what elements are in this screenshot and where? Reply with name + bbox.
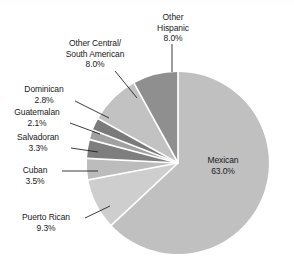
- slice-label-puerto-rican-name: Puerto Rican: [10, 212, 82, 223]
- slice-label-guatemalan-value: 2.1%: [6, 118, 68, 129]
- slice-label-other-hispanic: Other Hispanic 8.0%: [142, 12, 204, 44]
- leader-line-dominican: [75, 101, 109, 118]
- slice-label-mexican-value: 63.0%: [193, 166, 253, 177]
- slice-label-puerto-rican-value: 9.3%: [10, 223, 82, 234]
- slice-label-salvadoran-name: Salvadoran: [8, 132, 68, 143]
- slice-label-salvadoran-value: 3.3%: [8, 143, 68, 154]
- slice-label-guatemalan: Guatemalan 2.1%: [6, 107, 68, 128]
- slice-label-other-central-south-american-value: 8.0%: [51, 59, 139, 70]
- slice-label-other-hispanic-value: 8.0%: [142, 33, 204, 44]
- slice-label-guatemalan-name: Guatemalan: [6, 107, 68, 118]
- slice-label-dominican: Dominican 2.8%: [14, 84, 74, 105]
- slice-label-dominican-value: 2.8%: [14, 95, 74, 106]
- slice-label-puerto-rican: Puerto Rican 9.3%: [10, 212, 82, 233]
- slice-label-salvadoran: Salvadoran 3.3%: [8, 132, 68, 153]
- slice-label-other-central-south-american-line2: South American: [51, 49, 139, 60]
- slice-label-other-central-south-american-line1: Other Central/: [51, 38, 139, 49]
- slice-label-cuban-name: Cuban: [12, 165, 58, 176]
- slice-label-other-hispanic-line2: Hispanic: [142, 23, 204, 34]
- slice-label-mexican: Mexican 63.0%: [193, 155, 253, 176]
- slice-label-cuban-value: 3.5%: [12, 176, 58, 187]
- slice-label-mexican-name: Mexican: [193, 155, 253, 166]
- slice-label-other-hispanic-line1: Other: [142, 12, 204, 23]
- pie-chart-figure: Other Hispanic 8.0% Other Central/ South…: [0, 0, 294, 271]
- slice-label-cuban: Cuban 3.5%: [12, 165, 58, 186]
- slice-label-other-central-south-american: Other Central/ South American 8.0%: [51, 38, 139, 70]
- slice-label-dominican-name: Dominican: [14, 84, 74, 95]
